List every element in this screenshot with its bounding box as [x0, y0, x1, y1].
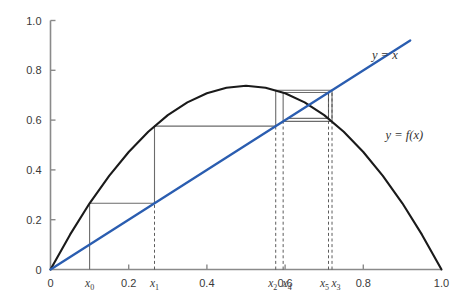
y-tick-label-0: 0	[35, 264, 41, 276]
y-tick-label-2: 0.4	[26, 164, 41, 176]
iterate-label-subscript: 5	[325, 283, 329, 292]
iterate-label-x_0: x0	[84, 277, 94, 292]
y-tick-label-5: 1.0	[26, 15, 41, 27]
iterate-label-x_1: x1	[149, 277, 159, 292]
y-tick-label-1: 0.2	[26, 214, 41, 226]
x-tick-label-5: 1.0	[434, 277, 449, 289]
x-tick-label-0: 0	[47, 277, 53, 289]
series-group	[51, 40, 442, 269]
iterate-label-x_2: x2	[267, 277, 277, 292]
iterate-label-subscript: 3	[337, 283, 341, 292]
x-tick-label-4: 0.8	[356, 277, 371, 289]
line-label: y = x	[370, 48, 398, 62]
line-y-equals-x	[51, 40, 411, 269]
iterate-label-subscript: 0	[90, 283, 94, 292]
cobweb-path	[90, 90, 332, 269]
iterate-label-subscript: 2	[273, 283, 277, 292]
iterate-label-subscript: 4	[288, 283, 292, 292]
iterate-label-x_3: x3	[330, 277, 340, 292]
x-tick-label-2: 0.4	[199, 277, 214, 289]
plot-canvas: 00.20.40.60.81.000.20.40.60.81.0 x0x1x2x…	[0, 0, 463, 300]
curve-f-of-x	[51, 86, 442, 270]
iterate-label-subscript: 1	[155, 283, 159, 292]
cobweb-diagram-figure: 00.20.40.60.81.000.20.40.60.81.0 x0x1x2x…	[0, 0, 463, 300]
y-tick-label-4: 0.8	[26, 64, 41, 76]
cobweb-group	[90, 90, 332, 269]
iterate-label-x_5: x5	[319, 277, 329, 292]
curve-label: y = f(x)	[384, 128, 424, 142]
y-tick-label-3: 0.6	[26, 114, 41, 126]
x-tick-label-1: 0.2	[121, 277, 136, 289]
